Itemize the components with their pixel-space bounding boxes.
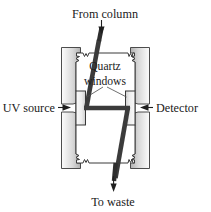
to-waste-label: To waste	[91, 195, 134, 209]
uv-source-arrow	[58, 104, 71, 110]
detector-arrow-head	[140, 104, 149, 110]
to-waste-arrow-head	[111, 184, 117, 193]
uv-flow-cell-figure: From column Quartz windows UV source Det…	[0, 0, 211, 212]
outlet-capillary	[114, 163, 116, 181]
flow-cell-diagram: From column Quartz windows UV source Det…	[0, 0, 211, 212]
uv-source-arrow-head	[63, 104, 72, 110]
from-column-label: From column	[72, 7, 138, 21]
uv-source-label: UV source	[3, 101, 55, 115]
outlet-tube	[114, 163, 116, 181]
detector-label: Detector	[156, 101, 198, 115]
quartz-windows-label-line1: Quartz	[89, 60, 121, 73]
detector-arrow	[140, 104, 153, 110]
quartz-windows-label-line2: windows	[84, 75, 126, 88]
